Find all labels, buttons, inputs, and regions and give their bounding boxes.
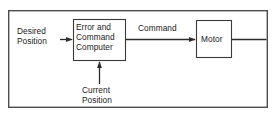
command-label: Command: [138, 23, 188, 33]
desired-position-label: Desired Position: [17, 26, 63, 46]
diagram-vector-layer: [0, 0, 276, 117]
error-and-command-computer-label: Error and Command Computer: [76, 22, 124, 53]
current-position-label: Current Position: [82, 85, 124, 105]
block-diagram-canvas: Error and Command Computer Motor Desired…: [0, 0, 276, 117]
motor-label: Motor: [201, 34, 233, 44]
